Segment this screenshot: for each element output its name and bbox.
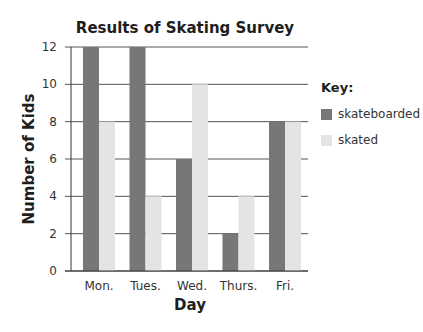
y-tick-label: 6 bbox=[49, 152, 57, 166]
y-tick-label: 2 bbox=[49, 227, 57, 241]
bar-skated bbox=[99, 122, 115, 271]
y-tick-label: 0 bbox=[49, 264, 57, 278]
y-tick-label: 4 bbox=[49, 189, 57, 203]
x-tick-label: Tues. bbox=[129, 279, 161, 293]
bar-skated bbox=[285, 122, 301, 271]
bar-skated bbox=[192, 84, 208, 271]
x-tick-label: Fri. bbox=[276, 279, 294, 293]
legend-item-skateboarded: skateboarded bbox=[321, 107, 420, 121]
legend: Key: skateboarded skated bbox=[321, 80, 420, 159]
y-tick-label: 8 bbox=[49, 115, 57, 129]
bar-skateboarded bbox=[130, 47, 146, 271]
x-axis-label: Day bbox=[174, 296, 206, 314]
legend-item-skated: skated bbox=[321, 133, 420, 147]
bar-skateboarded bbox=[223, 234, 239, 271]
bar-skated bbox=[146, 196, 162, 271]
x-tick-label: Thurs. bbox=[219, 279, 258, 293]
x-tick-label: Wed. bbox=[177, 279, 207, 293]
legend-title: Key: bbox=[321, 80, 420, 95]
legend-label: skated bbox=[338, 133, 378, 147]
y-axis-label: Number of Kids bbox=[20, 93, 38, 224]
y-tick-label: 12 bbox=[42, 40, 57, 54]
x-tick-label: Mon. bbox=[84, 279, 113, 293]
swatch-skated bbox=[321, 135, 332, 146]
swatch-skateboarded bbox=[321, 109, 332, 120]
y-tick-label: 10 bbox=[42, 77, 57, 91]
bar-skated bbox=[239, 196, 255, 271]
bar-skateboarded bbox=[83, 47, 99, 271]
bar-chart: 024681012Mon.Tues.Wed.Thurs.Fri.DayNumbe… bbox=[0, 0, 423, 332]
bar-skateboarded bbox=[269, 122, 285, 271]
legend-label: skateboarded bbox=[338, 107, 420, 121]
bar-skateboarded bbox=[176, 159, 192, 271]
